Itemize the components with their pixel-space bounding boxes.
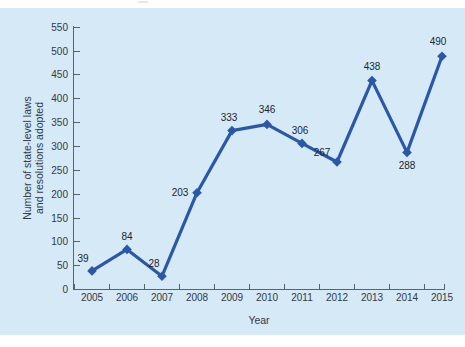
data-label-2009: 333: [221, 112, 238, 123]
series-markers: [87, 52, 447, 282]
data-label-2011: 306: [292, 125, 309, 136]
x-tick-label-2015: 2015: [431, 292, 454, 303]
y-axis-title-line-2: and resolutions adopted: [33, 102, 45, 214]
y-tick-label-150: 150: [51, 213, 68, 224]
y-axis-title: Number of state-level laws and resolutio…: [21, 96, 45, 220]
data-label-2015: 490: [430, 36, 447, 47]
y-tick-label-200: 200: [51, 189, 68, 200]
data-label-2010: 346: [259, 104, 276, 115]
x-tick-label-2006: 2006: [116, 292, 139, 303]
y-tick-label-500: 500: [51, 46, 68, 57]
y-axis-title-line-1: Number of state-level laws: [21, 96, 33, 220]
series-line: [92, 56, 442, 276]
data-label-2013: 438: [364, 61, 381, 72]
data-label-2005: 39: [77, 253, 89, 264]
y-tick-label-100: 100: [51, 236, 68, 247]
x-tick-label-2008: 2008: [186, 292, 209, 303]
line-chart: 0 50 100 150 200 250 300 350 400 450 500…: [0, 0, 465, 347]
x-tick-label-2011: 2011: [291, 292, 313, 303]
x-tick-label-2005: 2005: [81, 292, 104, 303]
x-axis-tick-labels: 2005 2006 2007 2008 2009 2010 2011 2012 …: [81, 292, 454, 303]
y-tick-label-550: 550: [51, 22, 68, 33]
y-tick-label-450: 450: [51, 69, 68, 80]
data-label-2008: 203: [172, 187, 189, 198]
y-axis-tick-labels: 0 50 100 150 200 250 300 350 400 450 500…: [51, 22, 68, 295]
x-tick-label-2009: 2009: [221, 292, 244, 303]
data-point-labels: 39 84 28 203 333 346 306 267 438 288 490: [77, 36, 446, 269]
data-label-2012: 267: [314, 147, 331, 158]
data-label-2014: 288: [399, 160, 416, 171]
x-axis: 2005 2006 2007 2008 2009 2010 2011 2012 …: [74, 284, 454, 327]
y-tick-label-300: 300: [51, 141, 68, 152]
data-series-state-laws: 39 84 28 203 333 346 306 267 438 288 490: [77, 36, 446, 281]
y-tick-label-400: 400: [51, 93, 68, 104]
y-tick-label-50: 50: [57, 260, 69, 271]
y-tick-label-250: 250: [51, 165, 68, 176]
y-tick-label-0: 0: [62, 284, 68, 295]
data-label-2006: 84: [121, 231, 133, 242]
x-tick-label-2012: 2012: [326, 292, 349, 303]
y-tick-label-350: 350: [51, 117, 68, 128]
x-axis-title: Year: [248, 314, 270, 326]
y-axis: 0 50 100 150 200 250 300 350 400 450 500…: [21, 22, 80, 295]
x-tick-label-2007: 2007: [151, 292, 174, 303]
data-label-2007: 28: [148, 258, 160, 269]
x-axis-ticks: [74, 284, 445, 290]
chart-figure: 0 50 100 150 200 250 300 350 400 450 500…: [0, 0, 465, 347]
y-axis-ticks: [74, 27, 80, 289]
x-tick-label-2013: 2013: [361, 292, 384, 303]
x-tick-label-2010: 2010: [256, 292, 279, 303]
data-point-2015: [437, 52, 447, 62]
x-tick-label-2014: 2014: [396, 292, 419, 303]
